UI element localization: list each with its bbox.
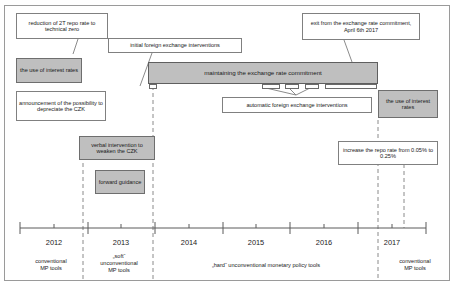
callout-increase-repo-label: increase the repo rate from 0.05% to 0.2… (341, 147, 435, 160)
callout-exit-commitment-label: exit from the exchange rate commitment, … (305, 20, 417, 33)
band-notch-3 (285, 84, 299, 89)
band-interest-rates-right-label: the use of interest rates (381, 98, 435, 111)
axis-year-2013: 2013 (96, 238, 146, 247)
callout-repo-zero-label: reduction of 2T repo rate to technical z… (19, 20, 105, 33)
category-hard-line1: „hard“ unconventional monetary policy to… (155, 262, 377, 269)
band-interest-rates-left-label: the use of interest rates (20, 67, 78, 73)
callout-announcement-czk-label: announcement of the possibility to depre… (19, 100, 103, 113)
band-notch-1 (149, 84, 157, 89)
callout-increase-repo: increase the repo rate from 0.05% to 0.2… (338, 141, 438, 165)
band-verbal-intervention-label: verbal intervention to weaken the CZK (82, 142, 152, 155)
band-notch-2 (262, 84, 280, 89)
callout-announcement-czk: announcement of the possibility to depre… (16, 91, 106, 121)
axis-year-2015: 2015 (231, 238, 281, 247)
category-conventional-right: conventional MP tools (382, 258, 448, 272)
band-notch-5 (325, 84, 377, 89)
callout-exit-commitment: exit from the exchange rate commitment, … (302, 13, 420, 40)
category-conventional-right-line1: conventional (382, 258, 448, 265)
category-soft-line3: MP tools (85, 267, 153, 274)
band-interest-rates-left: the use of interest rates (16, 58, 82, 83)
callout-automatic-fx-label: automatic foreign exchange interventions (246, 102, 347, 108)
category-hard-unconventional: „hard“ unconventional monetary policy to… (155, 262, 377, 269)
timeline-axis (20, 222, 426, 234)
band-notch-4 (305, 84, 319, 89)
band-exchange-rate-commitment: maintaining the exchange rate commitment (148, 62, 378, 84)
category-conventional-left: conventional MP tools (18, 258, 84, 272)
callout-automatic-fx: automatic foreign exchange interventions (222, 97, 372, 113)
callout-initial-fx-label: initial foreign exchange interventions (130, 42, 220, 48)
band-forward-guidance: forward guidance (95, 170, 145, 194)
axis-year-2017: 2017 (367, 238, 417, 247)
axis-year-2012: 2012 (29, 238, 79, 247)
axis-year-2016: 2016 (299, 238, 349, 247)
category-conventional-right-line2: MP tools (382, 265, 448, 272)
band-exchange-rate-commitment-label: maintaining the exchange rate commitment (204, 70, 322, 77)
category-soft-line1: „soft“ (85, 253, 153, 260)
category-conventional-left-line1: conventional (18, 258, 84, 265)
callout-repo-zero: reduction of 2T repo rate to technical z… (16, 13, 108, 39)
axis-year-2014: 2014 (164, 238, 214, 247)
category-soft-unconventional: „soft“ unconventional MP tools (85, 253, 153, 274)
band-forward-guidance-label: forward guidance (99, 179, 142, 185)
timeline-figure: reduction of 2T repo rate to technical z… (0, 0, 455, 287)
category-conventional-left-line2: MP tools (18, 265, 84, 272)
band-verbal-intervention: verbal intervention to weaken the CZK (79, 136, 155, 160)
callout-initial-fx: initial foreign exchange interventions (108, 38, 242, 53)
band-interest-rates-right: the use of interest rates (378, 90, 438, 118)
category-soft-line2: unconventional (85, 260, 153, 267)
